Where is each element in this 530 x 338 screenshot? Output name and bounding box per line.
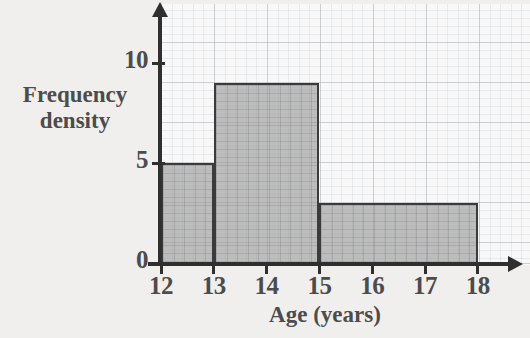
y-axis-tick-label: 0 [100, 246, 148, 274]
x-axis-tick-label: 12 [138, 272, 184, 300]
y-axis-title: Frequency density [0, 82, 150, 134]
x-axis-tick-label: 16 [349, 272, 395, 300]
y-axis-tick [152, 62, 165, 65]
x-axis-tick-label: 14 [244, 272, 290, 300]
x-axis-tick-label: 17 [402, 272, 448, 300]
bar-grid-texture [321, 205, 475, 264]
bar-grid-texture [216, 85, 318, 264]
y-axis-tick [152, 162, 165, 165]
y-axis-tick-label: 10 [100, 46, 148, 74]
y-axis-arrow-icon [152, 2, 168, 17]
histogram-bar [319, 203, 477, 264]
histogram-bar [161, 163, 214, 264]
y-axis-line [158, 14, 162, 266]
y-axis-title-line-1: Frequency [0, 82, 150, 108]
y-axis-tick-label: 5 [100, 146, 148, 174]
x-axis-tick-label: 13 [191, 272, 237, 300]
histogram-figure: 121314151617180510 Frequency density Age… [0, 0, 530, 338]
histogram-bar [214, 83, 320, 264]
x-axis-tick-label: 15 [296, 272, 342, 300]
x-axis-arrow-icon [508, 256, 523, 272]
y-axis-title-line-2: density [0, 108, 150, 134]
x-axis-line [148, 262, 511, 266]
x-axis-title: Age (years) [170, 302, 480, 328]
bar-grid-texture [163, 165, 212, 264]
x-axis-tick-label: 18 [455, 272, 501, 300]
y-axis-tick [152, 262, 165, 265]
